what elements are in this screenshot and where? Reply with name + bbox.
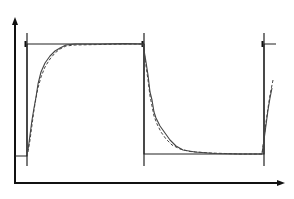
step-response-chart [0,0,294,199]
x-axis-arrow-icon [277,180,285,186]
chart-canvas [0,0,294,199]
dashed-series-line [28,44,273,154]
y-axis-arrow-icon [12,17,18,25]
solid-series-line [28,44,272,155]
axes [12,17,285,186]
series-lines [15,44,276,157]
